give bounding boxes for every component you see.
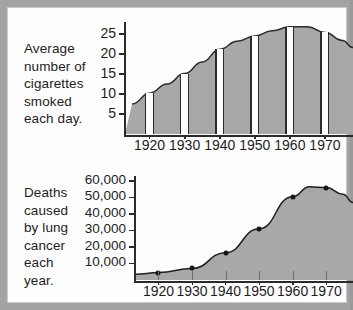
y-tick-label: 5 [108, 106, 116, 120]
y-tick [119, 73, 125, 75]
deaths-data-point [257, 226, 262, 231]
cigarettes-decade-bar-edge [328, 32, 329, 134]
y-tick [129, 180, 135, 182]
cigarettes-decade-bar-edge [258, 36, 259, 134]
y-tick-label: 40,000 [85, 206, 126, 220]
y-tick-label: 20,000 [85, 239, 126, 253]
deaths-baseline-tick [293, 271, 294, 280]
cigarettes-decade-bar-edge [293, 27, 294, 134]
y-tick [129, 246, 135, 248]
y-tick [129, 230, 135, 232]
deaths-plot-area [135, 176, 353, 280]
cigarettes-decade-bar-edge [223, 49, 224, 134]
deaths-data-point [324, 185, 329, 190]
y-tick-label: 30,000 [85, 222, 126, 236]
deaths-baseline-tick [326, 271, 327, 280]
chart-lung-cancer-deaths: Deaths caused by lung cancer each year. … [20, 168, 350, 306]
x-tick-label: 1970 [301, 138, 349, 152]
cigarettes-decade-bar-edge [285, 27, 286, 134]
y-tick [119, 53, 125, 55]
deaths-baseline-tick [158, 271, 159, 280]
cigarettes-y-axis [124, 22, 126, 136]
cigarettes-decade-bar-edge [180, 74, 181, 134]
x-tick-label: 1970 [302, 284, 350, 298]
y-tick [119, 33, 125, 35]
caption-line: each day. [24, 110, 119, 128]
page-surface: Average number of cigarettes smoked each… [8, 8, 346, 302]
cigarettes-decade-bar-edge [145, 93, 146, 134]
y-tick [129, 197, 135, 199]
y-tick [119, 93, 125, 95]
y-tick-label: 25 [100, 26, 116, 40]
caption-line: year. [24, 272, 102, 290]
y-tick-label: 20 [100, 46, 116, 60]
cigarettes-decade-bar-edge [215, 49, 216, 134]
y-tick-label: 10,000 [85, 255, 126, 269]
deaths-baseline-tick [259, 271, 260, 280]
y-tick [119, 113, 125, 115]
deaths-data-point [290, 194, 295, 199]
y-tick-label: 50,000 [85, 189, 126, 203]
deaths-data-point [223, 250, 228, 255]
y-tick-label: 10 [100, 86, 116, 100]
y-tick-label: 15 [100, 66, 116, 80]
deaths-baseline-tick [226, 271, 227, 280]
y-tick-label: 60,000 [85, 173, 126, 187]
chart-cigarettes: Average number of cigarettes smoked each… [20, 18, 350, 150]
deaths-baseline-tick [192, 271, 193, 280]
cigarettes-decade-bar-edge [153, 93, 154, 134]
y-tick [129, 213, 135, 215]
cigarettes-plot-area [125, 22, 353, 134]
y-tick [129, 263, 135, 265]
cigarettes-decade-bar-edge [188, 74, 189, 134]
cigarettes-decade-bar-edge [250, 36, 251, 134]
cigarettes-decade-bar-edge [320, 32, 321, 134]
